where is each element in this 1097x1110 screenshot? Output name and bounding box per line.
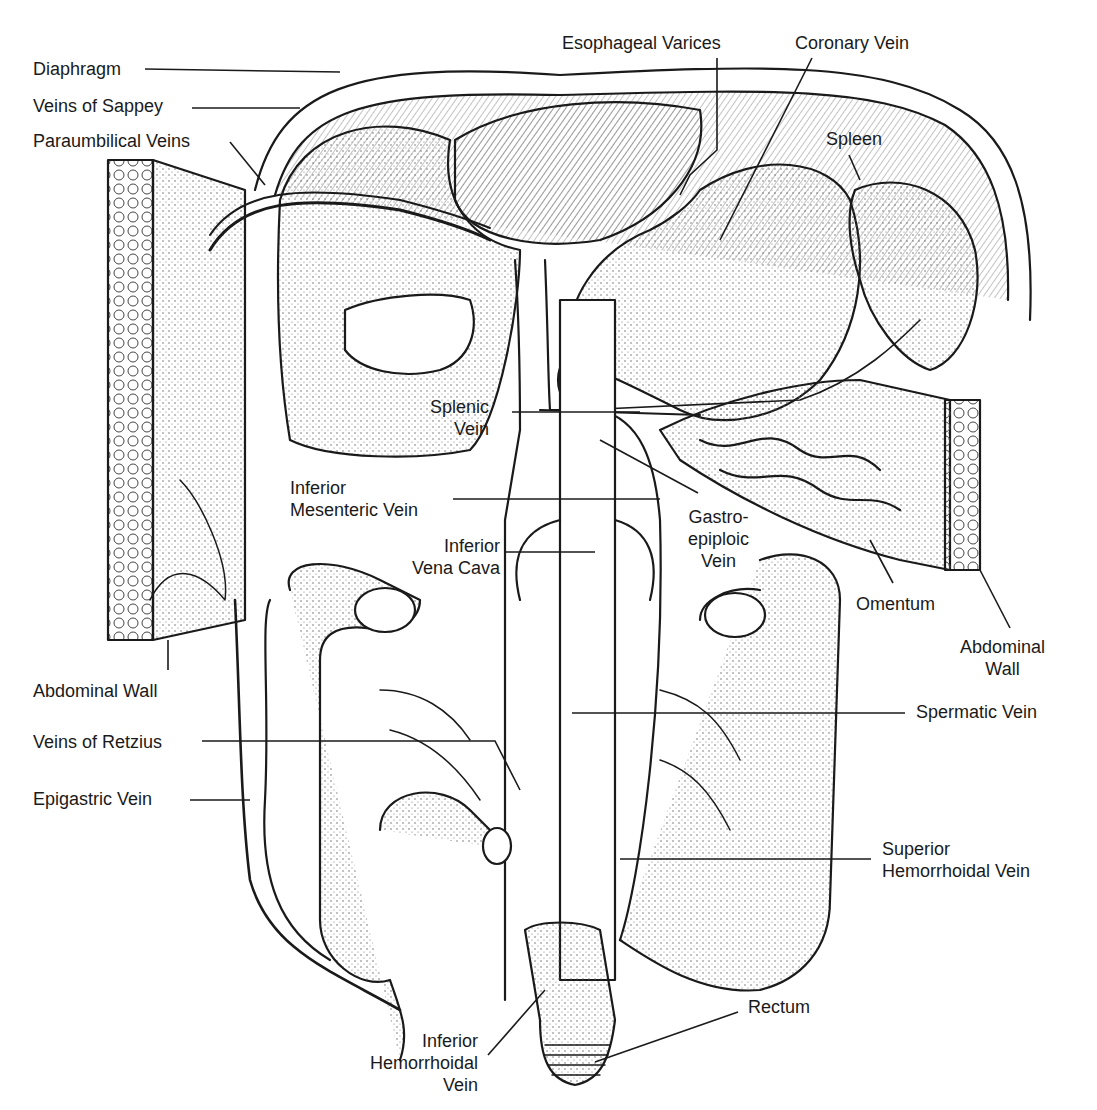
- small-intestine-loop: [380, 793, 511, 864]
- label-abdominal-wall-right: AbdominalWall: [960, 636, 1045, 680]
- label-inferior-mesenteric-vein: InferiorMesenteric Vein: [290, 477, 418, 521]
- label-veins-of-sappey: Veins of Sappey: [33, 95, 163, 117]
- leader-line-inferior-hemorrhoidal-vein: [488, 990, 545, 1055]
- label-text-line: Esophageal Varices: [562, 32, 721, 54]
- label-esophageal-varices: Esophageal Varices: [562, 32, 721, 54]
- label-paraumbilical-veins: Paraumbilical Veins: [33, 130, 190, 152]
- abdominal-wall-right-shape: [945, 400, 980, 570]
- label-text-line: Inferior: [290, 477, 418, 499]
- leader-line-rectum: [595, 1012, 738, 1062]
- label-superior-hemorrhoidal-vein: SuperiorHemorrhoidal Vein: [882, 838, 1030, 882]
- label-splenic-vein: SplenicVein: [430, 396, 489, 440]
- label-text-line: Spermatic Vein: [916, 701, 1037, 723]
- label-text-line: Rectum: [748, 996, 810, 1018]
- label-text-line: Vein: [430, 418, 489, 440]
- label-text-line: Abdominal: [960, 636, 1045, 658]
- label-text-line: Spleen: [826, 128, 882, 150]
- label-diaphragm: Diaphragm: [33, 58, 121, 80]
- label-coronary-vein: Coronary Vein: [795, 32, 909, 54]
- label-spermatic-vein: Spermatic Vein: [916, 701, 1037, 723]
- label-spleen: Spleen: [826, 128, 882, 150]
- label-text-line: Epigastric Vein: [33, 788, 152, 810]
- label-gastro-epiploic-vein: Gastro-epiploicVein: [688, 506, 749, 572]
- leader-line-diaphragm: [145, 69, 340, 72]
- label-text-line: Inferior: [412, 535, 500, 557]
- leader-line-veins-of-retzius: [202, 741, 520, 790]
- label-text-line: Wall: [960, 658, 1045, 680]
- rectum-shape: [525, 923, 615, 1086]
- label-text-line: Superior: [882, 838, 1030, 860]
- label-text-line: Coronary Vein: [795, 32, 909, 54]
- label-inferior-hemorrhoidal-vein: InferiorHemorrhoidalVein: [370, 1030, 478, 1096]
- label-text-line: Vena Cava: [412, 557, 500, 579]
- label-epigastric-vein: Epigastric Vein: [33, 788, 152, 810]
- label-text-line: Diaphragm: [33, 58, 121, 80]
- label-text-line: Splenic: [430, 396, 489, 418]
- label-text-line: Mesenteric Vein: [290, 499, 418, 521]
- anatomical-illustration: [0, 0, 1097, 1110]
- inferior-vena-cava-shape: [516, 300, 653, 980]
- label-abdominal-wall-left: Abdominal Wall: [33, 680, 157, 702]
- descending-colon-shape: [620, 554, 840, 990]
- label-text-line: Vein: [688, 550, 749, 572]
- label-text-line: Gastro-: [688, 506, 749, 528]
- label-text-line: Inferior: [370, 1030, 478, 1052]
- label-text-line: Veins of Sappey: [33, 95, 163, 117]
- label-veins-of-retzius: Veins of Retzius: [33, 731, 162, 753]
- label-rectum: Rectum: [748, 996, 810, 1018]
- label-text-line: Veins of Retzius: [33, 731, 162, 753]
- label-inferior-vena-cava: InferiorVena Cava: [412, 535, 500, 579]
- leader-line-paraumbilical-veins: [230, 142, 265, 185]
- label-text-line: Abdominal Wall: [33, 680, 157, 702]
- label-text-line: Paraumbilical Veins: [33, 130, 190, 152]
- label-text-line: Hemorrhoidal Vein: [882, 860, 1030, 882]
- label-text-line: Hemorrhoidal: [370, 1052, 478, 1074]
- label-text-line: Vein: [370, 1074, 478, 1096]
- leader-line-abdominal-wall-right: [980, 570, 1010, 628]
- label-text-line: Omentum: [856, 593, 935, 615]
- label-text-line: epiploic: [688, 528, 749, 550]
- label-omentum: Omentum: [856, 593, 935, 615]
